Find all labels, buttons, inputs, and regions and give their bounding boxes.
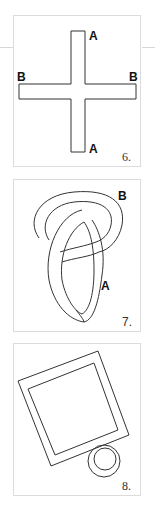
figure-number: 8. <box>122 480 131 492</box>
label-a-top: A <box>89 30 98 42</box>
label-a-bottom: A <box>89 143 98 155</box>
figure-7-panel: B A 7. <box>13 179 141 332</box>
figure-6-panel: A B B A 6. <box>13 15 141 167</box>
label-b-left: B <box>17 71 26 83</box>
top-rule-right <box>142 47 155 48</box>
figure-8-panel: 8. <box>13 343 141 496</box>
label-a: A <box>101 280 110 292</box>
figure-number: 7. <box>122 316 132 328</box>
label-b: B <box>118 190 127 202</box>
top-rule-left <box>0 47 14 48</box>
square-frame-ring-icon <box>14 344 142 497</box>
figure-number: 6. <box>122 151 131 163</box>
label-b-right: B <box>129 71 138 83</box>
cross-shape-icon <box>14 16 142 168</box>
